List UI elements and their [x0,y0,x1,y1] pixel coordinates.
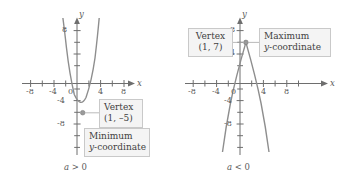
x-tick-label--8: -8 [26,87,34,96]
y-tick-label--4: -4 [224,96,232,105]
sign-label-rest: < 0 [232,162,250,172]
maximum-callout-line2: y-coordinate [264,42,326,53]
minimum-callout-line1: Minimum [89,131,145,142]
x-tick-label--4: -4 [49,87,57,96]
sign-label-rest: > 0 [69,162,87,172]
figure-parabola-opens-up: -8 -4 0 4 8 8 -4 -8 x y Vertex (1, –5) M… [0,0,171,182]
maximum-callout: Maximum y-coordinate [259,28,331,57]
x-tick-label-4: 4 [261,87,266,96]
x-axis-label: x [137,78,142,88]
vertex-marker [244,40,249,45]
figure-parabola-opens-down: -8 -4 0 4 8 8 4 -4 -8 x y Vertex (1, 7) … [171,0,342,182]
vertex-callout-line1: Vertex [193,31,228,42]
vertex-callout: Vertex (1, –5) [99,99,143,128]
y-axis-label: y [79,9,84,19]
minimum-callout-line2: y-coordinate [89,142,145,153]
vertex-callout-line2: (1, 7) [193,42,228,53]
sign-label-a-negative: a < 0 [227,162,250,172]
x-tick-label--8: -8 [188,87,196,96]
y-tick-label--4: -4 [57,96,65,105]
maximum-callout-line1: Maximum [264,31,326,42]
vertex-callout-line1: Vertex [104,102,138,113]
x-tick-label-4: 4 [98,87,103,96]
x-tick-label-8: 8 [121,87,126,96]
y-axis [74,18,81,156]
y-tick-label--8: -8 [224,119,232,128]
maximum-callout-suffix: -coordinate [269,42,321,52]
vertex-callout: Vertex (1, 7) [188,28,233,57]
x-tick-label--4: -4 [212,87,220,96]
minimum-callout: Minimum y-coordinate [84,128,150,157]
y-axis-label: y [242,9,247,19]
x-tick-label-0: 0 [68,87,73,96]
x-axis [22,80,135,87]
sign-label-a-positive: a > 0 [64,162,87,172]
y-tick-label-8: 8 [62,25,67,34]
x-tick-label-0: 0 [231,87,236,96]
minimum-callout-suffix: -coordinate [94,142,146,152]
y-tick-label--8: -8 [57,119,65,128]
x-tick-label-8: 8 [284,87,289,96]
y-axis [237,18,244,156]
x-axis-label: x [330,78,335,88]
vertex-marker [80,110,85,115]
vertex-callout-line2: (1, –5) [104,113,138,124]
